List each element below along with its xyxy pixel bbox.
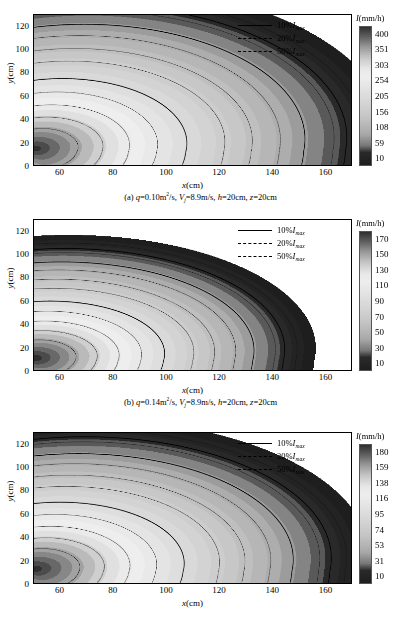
caption-h-value: =20cm, (222, 192, 250, 202)
x-axis-ticks-c: 6080100120140160 (33, 585, 352, 598)
x-tick-label: 80 (108, 585, 117, 596)
legend-entry-20pct: 20%Imax (236, 449, 348, 462)
colorbar-tick-label: 159 (375, 463, 389, 472)
colorbar-ticks-c: 1801591381169574533110 (374, 444, 401, 584)
caption-q-tail: /s, (169, 397, 179, 407)
x-tick-label: 60 (55, 585, 64, 596)
legend-a: 10%Imax 20%Imax 50%Imax (236, 18, 348, 57)
y-tick-label: 20 (20, 343, 29, 352)
x-axis-ticks-b: 6080100120140160 (33, 372, 352, 385)
legend-pct: 20% (277, 451, 293, 461)
caption-q-exponent: 2 (167, 396, 170, 402)
x-unit: (cm) (186, 180, 203, 190)
legend-entry-50pct: 50%Imax (236, 462, 348, 475)
x-tick-label: 120 (212, 372, 226, 383)
x-axis-label-b: x(cm) (33, 385, 352, 395)
y-unit: (cm) (5, 481, 15, 498)
colorbar-tick-label: 95 (375, 510, 384, 519)
x-tick-label: 80 (108, 167, 117, 178)
legend-entry-20pct: 20%Imax (236, 236, 348, 249)
legend-subscript: max (295, 469, 304, 475)
y-tick-label: 40 (20, 533, 29, 542)
x-unit: (cm) (186, 385, 203, 395)
x-tick-label: 60 (55, 167, 64, 178)
y-tick-label: 120 (16, 439, 30, 448)
colorbar-tick-label: 116 (375, 494, 388, 503)
panel-a: 020406080100120 y(cm) 6080100120140160 x… (0, 0, 401, 205)
caption-v-subscript: j (184, 197, 186, 203)
legend-pct: 10% (277, 225, 293, 235)
legend-label-50pct: 50%Imax (274, 251, 305, 261)
legend-entry-50pct: 50%Imax (236, 44, 348, 57)
colorbar-tick-label: 10 (375, 359, 384, 368)
colorbar-tick-label: 205 (375, 92, 389, 101)
colorbar-tick-label: 156 (375, 107, 389, 116)
legend-label-20pct: 20%Imax (274, 33, 305, 43)
legend-pct: 50% (277, 464, 293, 474)
y-tick-label: 0 (25, 367, 30, 376)
caption-b: (b) q=0.14m2/s, Vj=8.9m/s, h=20cm, z=20c… (0, 397, 401, 407)
legend-label-50pct: 50%Imax (274, 464, 305, 474)
caption-q-value: =0.14m (140, 397, 166, 407)
colorbar-tick-label: 400 (375, 29, 389, 38)
legend-line-solid-icon (236, 21, 274, 29)
y-symbol: y (5, 80, 15, 84)
y-tick-label: 120 (16, 226, 30, 235)
colorbar-unit: (mm/h) (359, 431, 385, 441)
legend-subscript: max (295, 456, 304, 462)
y-tick-label: 60 (20, 296, 29, 305)
colorbar-tick-label: 110 (375, 281, 388, 290)
colorbar-tick-label: 10 (375, 572, 384, 581)
caption-prefix: (a) (124, 192, 136, 202)
colorbar-title-a: I(mm/h) (356, 13, 384, 23)
colorbar-tick-label: 59 (375, 138, 384, 147)
y-tick-label: 100 (16, 45, 30, 54)
legend-label-10pct: 10%Imax (274, 438, 305, 448)
colorbar-gradient-b (360, 232, 371, 370)
colorbar-unit: (mm/h) (359, 13, 385, 23)
caption-v-subscript: j (184, 402, 186, 408)
colorbar-tick-label: 150 (375, 250, 389, 259)
colorbar-title-c: I(mm/h) (356, 431, 384, 441)
legend-subscript: max (295, 230, 304, 236)
legend-line-dashed-icon (236, 252, 274, 260)
legend-label-50pct: 50%Imax (274, 46, 305, 56)
legend-pct: 20% (277, 33, 293, 43)
legend-label-20pct: 20%Imax (274, 451, 305, 461)
y-tick-label: 80 (20, 486, 29, 495)
x-axis-ticks-a: 6080100120140160 (33, 167, 352, 180)
caption-q-exponent: 2 (166, 191, 169, 197)
colorbar-tick-label: 170 (375, 234, 389, 243)
colorbar-tick-label: 351 (375, 45, 389, 54)
legend-label-20pct: 20%Imax (274, 238, 305, 248)
y-axis-label-a: y(cm) (5, 53, 15, 93)
caption-h-value: =20cm, (222, 397, 250, 407)
colorbar-ticks-a: 4003513032542051561085910 (374, 26, 401, 166)
caption-q-tail: /s, (169, 192, 179, 202)
caption-z-value: =20cm (253, 192, 277, 202)
x-tick-label: 100 (159, 585, 173, 596)
x-tick-label: 100 (159, 167, 173, 178)
colorbar-title-b: I(mm/h) (356, 218, 384, 228)
caption-a: (a) q=0.10m2/s, Vj=8.9m/s, h=20cm, z=20c… (0, 192, 401, 202)
y-tick-label: 60 (20, 509, 29, 518)
colorbar-b (359, 231, 372, 371)
legend-line-dashdot-icon (236, 452, 274, 460)
colorbar-tick-label: 30 (375, 343, 384, 352)
colorbar-unit: (mm/h) (359, 218, 385, 228)
caption-q-value: =0.10m (140, 192, 166, 202)
colorbar-tick-label: 53 (375, 541, 384, 550)
x-tick-label: 160 (319, 167, 333, 178)
y-axis-label-c: y(cm) (5, 471, 15, 511)
colorbar-tick-label: 90 (375, 297, 384, 306)
x-tick-label: 140 (266, 585, 280, 596)
legend-entry-50pct: 50%Imax (236, 249, 348, 262)
colorbar-tick-label: 10 (375, 154, 384, 163)
x-axis-label-a: x(cm) (33, 180, 352, 190)
legend-pct: 10% (277, 438, 293, 448)
colorbar-tick-label: 130 (375, 265, 389, 274)
y-tick-label: 20 (20, 138, 29, 147)
colorbar-tick-label: 70 (375, 312, 384, 321)
y-tick-label: 40 (20, 320, 29, 329)
legend-pct: 50% (277, 46, 293, 56)
